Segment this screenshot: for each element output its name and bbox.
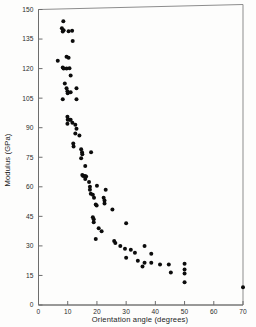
y-tick-label: 120: [22, 65, 34, 72]
x-tick-label: 70: [239, 308, 247, 315]
data-point: [72, 144, 76, 148]
data-point: [133, 251, 137, 255]
y-tick-label: 30: [26, 242, 34, 249]
data-point: [92, 220, 96, 224]
data-point: [95, 204, 99, 208]
data-point: [77, 134, 81, 138]
y-tick-label: 45: [26, 213, 34, 220]
data-point: [143, 261, 147, 265]
data-point: [183, 268, 187, 272]
data-point: [74, 127, 78, 131]
data-point: [71, 39, 75, 43]
data-point: [74, 86, 78, 90]
data-point: [61, 19, 65, 23]
data-point: [61, 30, 65, 34]
data-point: [83, 177, 87, 181]
x-tick-labels: 010203040506070: [37, 308, 247, 315]
data-point: [110, 207, 114, 211]
data-point: [89, 150, 93, 154]
data-point: [183, 280, 187, 284]
y-tick-labels: 0153045607590105120135150: [22, 6, 34, 309]
x-tick-label: 20: [93, 308, 101, 315]
y-tick-label: 135: [22, 35, 34, 42]
data-point: [158, 263, 162, 267]
data-point: [124, 256, 128, 260]
data-point: [149, 261, 153, 265]
x-tick-label: 50: [181, 308, 189, 315]
data-point: [141, 265, 145, 269]
y-tick-label: 150: [22, 6, 34, 13]
plot-frame: [39, 5, 244, 306]
data-point: [69, 74, 73, 78]
x-tick-label: 10: [64, 308, 72, 315]
data-point: [95, 184, 99, 188]
data-point: [103, 202, 107, 206]
data-point: [79, 156, 83, 160]
data-point: [61, 97, 65, 101]
y-tick-label: 75: [26, 154, 34, 161]
data-point: [113, 241, 117, 245]
y-tick-label: 0: [30, 301, 34, 308]
data-point: [97, 226, 101, 230]
x-tick-label: 30: [122, 308, 130, 315]
data-point: [94, 237, 98, 241]
plot-canvas: 010203040506070 015304560759010512013515…: [0, 0, 256, 327]
data-point: [69, 90, 73, 94]
data-point: [100, 229, 104, 233]
data-points: [56, 19, 245, 289]
data-point: [149, 252, 153, 256]
data-point: [65, 122, 69, 126]
axis-ticks: [39, 10, 244, 306]
data-point: [124, 221, 128, 225]
y-tick-label: 60: [26, 183, 34, 190]
data-point: [104, 188, 108, 192]
data-point: [123, 247, 127, 251]
y-tick-label: 105: [22, 95, 34, 102]
data-point: [169, 271, 173, 275]
data-point: [73, 132, 77, 136]
data-point: [241, 285, 245, 289]
x-tick-label: 40: [152, 308, 160, 315]
data-point: [183, 271, 187, 275]
data-point: [67, 29, 71, 33]
data-point: [136, 259, 140, 263]
data-point: [92, 196, 96, 200]
data-point: [129, 248, 133, 252]
data-point: [56, 59, 60, 63]
y-tick-label: 15: [26, 272, 34, 279]
y-tick-label: 90: [26, 124, 34, 131]
data-point: [74, 97, 78, 101]
data-point: [83, 164, 87, 168]
data-point: [70, 29, 74, 33]
data-point: [183, 262, 187, 266]
data-point: [143, 244, 147, 248]
data-point: [167, 263, 171, 267]
data-point: [73, 123, 77, 127]
y-axis-title: Modulus (GPa): [3, 133, 12, 186]
data-point: [80, 152, 84, 156]
data-point: [88, 188, 92, 192]
data-point: [118, 244, 122, 248]
x-axis-title: Orientation angle (degrees): [92, 315, 189, 324]
data-point: [63, 81, 67, 85]
data-point: [67, 56, 71, 60]
data-point: [87, 180, 91, 184]
x-tick-label: 0: [37, 308, 41, 315]
scatter-plot-figure: 010203040506070 015304560759010512013515…: [0, 0, 256, 327]
x-tick-label: 60: [210, 308, 218, 315]
data-point: [67, 66, 71, 70]
